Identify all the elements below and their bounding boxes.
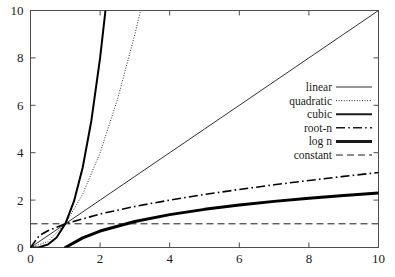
legend-label-quadratic: quadratic — [289, 95, 332, 108]
y-tick-label: 8 — [17, 50, 24, 65]
legend-label-root-n: root-n — [304, 122, 332, 134]
legend-label-log-n: log n — [309, 135, 333, 148]
x-tick-label: 10 — [372, 251, 385, 266]
y-tick-label: 10 — [11, 3, 24, 18]
y-tick-label: 6 — [17, 98, 24, 113]
y-tick-label: 0 — [17, 240, 24, 255]
x-tick-label: 2 — [97, 251, 104, 266]
legend-label-linear: linear — [306, 81, 332, 93]
y-tick-label: 2 — [17, 193, 24, 208]
legend-label-cubic: cubic — [307, 108, 332, 120]
y-tick-label: 4 — [17, 145, 24, 160]
legend-label-constant: constant — [294, 149, 333, 161]
x-tick-label: 0 — [27, 251, 34, 266]
x-tick-label: 6 — [236, 251, 243, 266]
x-tick-label: 8 — [306, 251, 313, 266]
x-tick-label: 4 — [166, 251, 173, 266]
chart-canvas: 02468100246810linearquadraticcubicroot-n… — [0, 0, 395, 277]
growth-rate-chart: 02468100246810linearquadraticcubicroot-n… — [0, 0, 395, 277]
